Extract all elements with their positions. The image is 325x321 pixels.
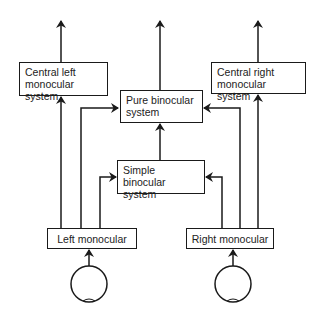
right-monocular-box: Right monocular	[186, 228, 274, 249]
central-left-monocular-box: Central left monocular system	[19, 62, 108, 96]
central-left-line2: monocular system	[25, 78, 102, 102]
simple-binocular-box: Simple binocular system	[117, 160, 205, 194]
central-right-monocular-box: Central right monocular system	[211, 62, 306, 94]
left-monocular-label: Left monocular	[57, 233, 126, 245]
simple-binocular-line1: Simple binocular	[123, 164, 199, 188]
central-right-line2: monocular system	[217, 78, 300, 102]
pure-binocular-line2: system	[126, 106, 197, 118]
right-eye-icon	[215, 266, 251, 302]
simple-binocular-line2: system	[123, 188, 199, 200]
pure-binocular-line1: Pure binocular	[126, 94, 197, 106]
central-left-line1: Central left	[25, 66, 102, 78]
right-monocular-label: Right monocular	[192, 233, 268, 245]
left-eye-icon	[71, 266, 107, 302]
central-right-line1: Central right	[217, 66, 300, 78]
arrow-left-mono-to-simple	[100, 177, 116, 228]
arrow-right-mono-to-simple	[206, 177, 222, 228]
left-monocular-box: Left monocular	[47, 228, 137, 249]
pure-binocular-box: Pure binocular system	[120, 90, 203, 123]
